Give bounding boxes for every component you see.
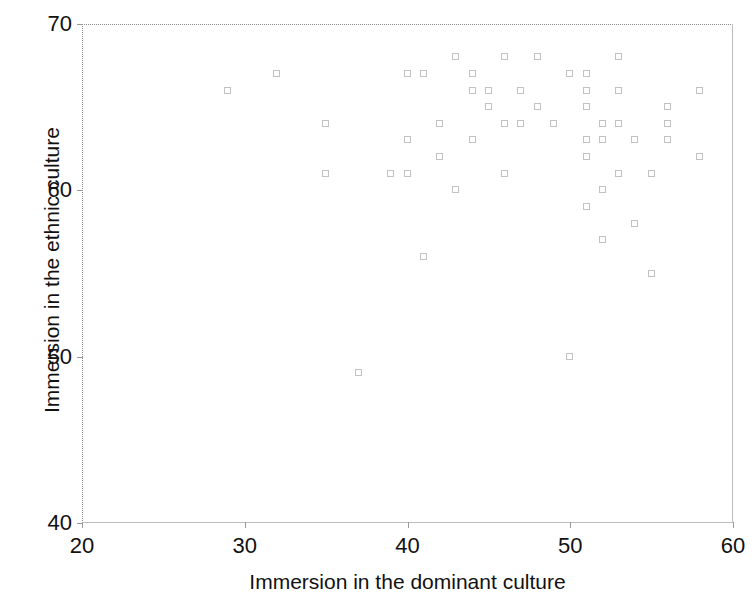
data-point [501,170,508,177]
data-point [404,170,411,177]
plot-area: 40506070 2030405060 [82,24,733,523]
data-point [696,87,703,94]
data-point [583,136,590,143]
x-tick-label: 40 [395,533,419,559]
data-point [696,153,703,160]
data-point [485,103,492,110]
figure-caption [6,598,526,613]
data-point [566,353,573,360]
data-point [615,87,622,94]
data-point [469,70,476,77]
data-point [436,120,443,127]
data-point [664,136,671,143]
data-point [583,87,590,94]
data-point [517,87,524,94]
x-tick-mark [408,522,409,528]
data-point [631,136,638,143]
data-point [436,153,443,160]
data-point [469,136,476,143]
data-point [648,170,655,177]
plot-border-right [732,24,733,523]
x-tick-label: 20 [70,533,94,559]
data-point [420,253,427,260]
data-point [322,170,329,177]
data-point [404,70,411,77]
x-axis-title: Immersion in the dominant culture [82,570,733,594]
data-point [273,70,280,77]
data-point [615,53,622,60]
data-point [224,87,231,94]
data-point [322,120,329,127]
scatter-plot-figure: Immersion in the ethnic culture 40506070… [0,0,756,614]
y-tick-mark [77,190,83,191]
data-point [615,120,622,127]
x-tick-label: 30 [233,533,257,559]
data-point [355,369,362,376]
data-point [469,87,476,94]
data-point [648,270,655,277]
data-point [664,120,671,127]
data-point [583,70,590,77]
data-point [583,203,590,210]
x-tick-mark [733,522,734,528]
data-point [599,236,606,243]
y-tick-mark [77,24,83,25]
data-point [534,53,541,60]
y-axis-title: Immersion in the ethnic culture [40,50,64,490]
data-point [599,186,606,193]
data-point [599,120,606,127]
data-point [485,87,492,94]
data-point [404,136,411,143]
x-tick-label: 60 [721,533,745,559]
data-point [534,103,541,110]
y-tick-label: 70 [48,11,72,37]
data-point [501,120,508,127]
data-point [599,136,606,143]
data-point [452,53,459,60]
data-point [615,170,622,177]
data-point [550,120,557,127]
x-tick-mark [570,522,571,528]
y-tick-mark [77,357,83,358]
data-point [517,120,524,127]
data-point [387,170,394,177]
y-tick-label: 40 [48,510,72,536]
data-point [420,70,427,77]
data-point [631,220,638,227]
data-point [452,186,459,193]
data-point [566,70,573,77]
x-tick-label: 50 [558,533,582,559]
data-point [583,103,590,110]
y-axis-line [82,24,83,523]
data-point [501,53,508,60]
x-tick-mark [245,522,246,528]
x-tick-mark [82,522,83,528]
data-point [664,103,671,110]
y-tick-label: 50 [48,344,72,370]
y-tick-label: 60 [48,177,72,203]
data-point [583,153,590,160]
plot-border-top [82,24,733,25]
